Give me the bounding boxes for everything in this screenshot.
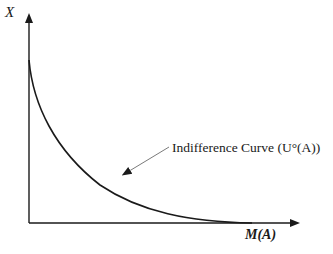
x-axis-label: M(A)	[245, 227, 276, 243]
y-axis-label: X	[5, 4, 14, 21]
curve-annotation: Indifference Curve (U°(A))	[172, 140, 320, 156]
indifference-curve-diagram	[0, 0, 333, 254]
annotation-arrow	[126, 147, 169, 173]
